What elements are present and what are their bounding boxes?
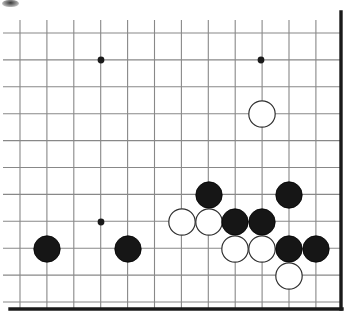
white-stone-4[interactable]: [222, 236, 248, 262]
star-point-upper-left: [98, 57, 105, 64]
black-stone-8[interactable]: [303, 236, 329, 262]
black-stone-4[interactable]: [249, 209, 275, 235]
black-stone-6[interactable]: [115, 236, 141, 262]
black-stone-5[interactable]: [34, 236, 60, 262]
white-stone-6[interactable]: [276, 263, 302, 289]
black-stone-1[interactable]: [196, 182, 222, 208]
go-board-figure: [0, 0, 353, 323]
white-stone-1[interactable]: [249, 101, 275, 127]
black-stone-7[interactable]: [276, 236, 302, 262]
black-stone-2[interactable]: [276, 182, 302, 208]
star-point-upper-right: [258, 57, 265, 64]
star-point-lower-left: [98, 219, 105, 226]
go-board-canvas[interactable]: [0, 0, 353, 323]
white-stone-5[interactable]: [249, 236, 275, 262]
white-stone-2[interactable]: [169, 209, 195, 235]
white-stone-3[interactable]: [196, 209, 222, 235]
black-stone-3[interactable]: [222, 209, 248, 235]
